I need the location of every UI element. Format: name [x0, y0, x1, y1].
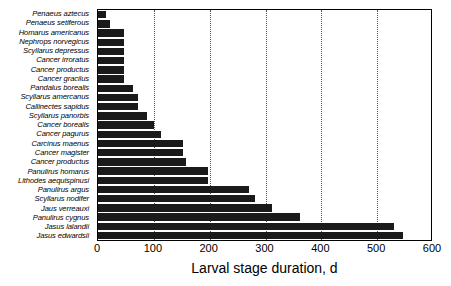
y-axis-label: Lithodes aequispinusi: [0, 176, 93, 185]
y-axis-label: Panulirus cygnus: [0, 213, 93, 222]
bar: [98, 223, 394, 230]
y-axis-label: Carcinus maenus: [0, 139, 93, 148]
bar-row: [98, 84, 431, 93]
y-axis-label: Pandalus borealis: [0, 83, 93, 92]
bar-row: [98, 212, 431, 221]
y-axis-label: Callinectes sapidus: [0, 102, 93, 111]
y-axis-label: Scyllarus amercanus: [0, 92, 93, 101]
bar-row: [98, 157, 431, 166]
y-axis-label: Jasus lalandii: [0, 222, 93, 231]
bar: [98, 158, 186, 165]
x-axis-tick: 400: [311, 242, 329, 254]
plot-area: [97, 9, 432, 241]
y-axis-label: Penaeus setiferous: [0, 18, 93, 27]
bar-row: [98, 38, 431, 47]
bar: [98, 20, 110, 27]
bar: [98, 103, 138, 110]
bar-row: [98, 120, 431, 129]
y-axis-label: Cancer pagurus: [0, 129, 93, 138]
bar: [98, 177, 208, 184]
y-axis-label: Jasus edwardsii: [0, 231, 93, 240]
y-axis-label: Scyllarus panorbis: [0, 111, 93, 120]
bar: [98, 94, 138, 101]
x-axis-tick: 100: [144, 242, 162, 254]
bar-row: [98, 222, 431, 231]
larval-stage-duration-bar-chart: Penaeus aztecusPenaeus setiferousHomarus…: [0, 0, 451, 286]
bar-row: [98, 194, 431, 203]
bar-row: [98, 19, 431, 28]
y-axis-label: Cancer magister: [0, 148, 93, 157]
bar: [98, 195, 255, 202]
bar-row: [98, 148, 431, 157]
x-axis-tick: 300: [255, 242, 273, 254]
bar: [98, 85, 133, 92]
x-axis-title: Larval stage duration, d: [97, 260, 432, 276]
bar-row: [98, 74, 431, 83]
bar: [98, 11, 106, 18]
y-axis-label: Panulirus argus: [0, 185, 93, 194]
bar-row: [98, 203, 431, 212]
y-axis-label: Cancer productus: [0, 157, 93, 166]
bar: [98, 112, 147, 119]
y-axis-label: Cancer gracilus: [0, 74, 93, 83]
y-axis-label: Cancer irroratus: [0, 55, 93, 64]
y-axis-label: Scyllarus nodifer: [0, 194, 93, 203]
bar: [98, 39, 124, 46]
y-axis-label: Cancer borealis: [0, 120, 93, 129]
x-axis-tick: 0: [94, 242, 100, 254]
bar-row: [98, 166, 431, 175]
bar-row: [98, 130, 431, 139]
bar: [98, 149, 183, 156]
bar-row: [98, 111, 431, 120]
bar-row: [98, 56, 431, 65]
x-axis-tick: 600: [423, 242, 441, 254]
bar: [98, 29, 124, 36]
x-axis-tick: 500: [367, 242, 385, 254]
y-axis-label: Jaus verreauxi: [0, 204, 93, 213]
bar-series: [98, 10, 431, 240]
bar-row: [98, 231, 431, 240]
bar: [98, 186, 249, 193]
bar-row: [98, 93, 431, 102]
bar-row: [98, 139, 431, 148]
bar: [98, 167, 208, 174]
bar-row: [98, 10, 431, 19]
y-axis-category-labels: Penaeus aztecusPenaeus setiferousHomarus…: [0, 9, 93, 241]
y-axis-label: Penaeus aztecus: [0, 9, 93, 18]
bar: [98, 121, 154, 128]
bar-row: [98, 28, 431, 37]
y-axis-label: Panulirus homarus: [0, 167, 93, 176]
x-axis-tick: 200: [199, 242, 217, 254]
bar: [98, 66, 124, 73]
bar-row: [98, 102, 431, 111]
bar: [98, 140, 183, 147]
bar: [98, 48, 124, 55]
bar: [98, 75, 124, 82]
bar: [98, 131, 161, 138]
bar-row: [98, 47, 431, 56]
y-axis-label: Cancer productus: [0, 65, 93, 74]
y-axis-label: Scyllarus depressus: [0, 46, 93, 55]
y-axis-label: Nephrops norvegicus: [0, 37, 93, 46]
x-axis-tick-labels: 0100200300400500600: [97, 242, 432, 258]
bar-row: [98, 185, 431, 194]
bar: [98, 213, 300, 220]
bar: [98, 57, 124, 64]
bar: [98, 204, 272, 211]
bar-row: [98, 176, 431, 185]
bar-row: [98, 65, 431, 74]
y-axis-label: Homarus americanus: [0, 28, 93, 37]
bar: [98, 232, 403, 239]
